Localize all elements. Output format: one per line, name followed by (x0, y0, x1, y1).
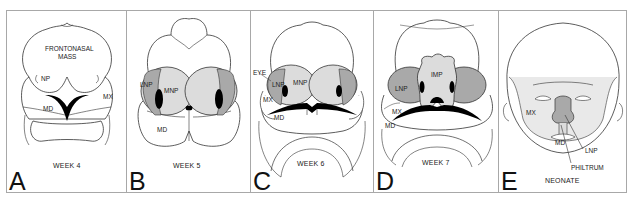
stage-label: WEEK 4 (53, 162, 81, 169)
mass-label: MASS (58, 53, 76, 60)
stage-label: WEEK 7 (422, 159, 450, 166)
lnp-label: LNP (140, 81, 153, 88)
panel-letter: C (253, 169, 271, 194)
panel-b: LNP MNP MD WEEK 5 B (127, 11, 251, 192)
mnp-label: MNP (164, 87, 178, 94)
lnp-label: LNP (585, 147, 598, 154)
panel-letter: A (9, 169, 26, 194)
md-label: MD (274, 114, 284, 121)
lnp-label: LNP (395, 85, 408, 92)
panel-e: MX MD LNP PHILTRUM NEONATE E (499, 11, 626, 192)
imp-label: IMP (431, 71, 443, 78)
lnp-label: LNP (272, 81, 285, 88)
md-label: MD (157, 126, 167, 133)
philtrum-label: PHILTRUM (571, 164, 604, 171)
embryo-face-figure: FRONTONASAL MASS NP ST MX MD WEEK 4 A LN… (6, 10, 627, 193)
stage-label: WEEK 6 (297, 160, 325, 167)
mnp-label: MNP (293, 79, 307, 86)
panel-letter: E (501, 169, 518, 194)
neonate-face-drawing (499, 11, 626, 192)
panel-d: LNP IMP MX MD WEEK 7 D (374, 11, 499, 192)
mx-label: MX (392, 108, 402, 115)
stage-label: NEONATE (545, 177, 580, 184)
panel-letter: D (376, 169, 394, 194)
panel-c: EYE LNP MNP MX MD WEEK 6 C (251, 11, 374, 192)
st-label: ST (64, 95, 72, 102)
md-label: MD (43, 105, 53, 112)
frontonasal-label: FRONTONASAL (45, 45, 94, 52)
np-label: NP (41, 75, 50, 82)
mx-label: MX (263, 96, 273, 103)
md-label: MD (385, 122, 395, 129)
panel-a: FRONTONASAL MASS NP ST MX MD WEEK 4 A (7, 11, 127, 192)
stage-label: WEEK 5 (173, 162, 201, 169)
md-label: MD (555, 139, 565, 146)
eye-label: EYE (253, 69, 266, 76)
mx-label: MX (526, 109, 536, 116)
mx-label: MX (103, 93, 113, 100)
panel-letter: B (129, 169, 146, 194)
